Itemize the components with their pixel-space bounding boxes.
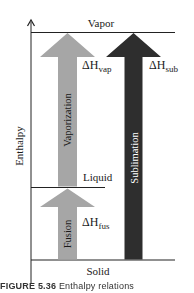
enthalpy-axis-label: Enthalpy: [13, 126, 25, 166]
vaporization-label: Vaporization: [62, 92, 73, 146]
figure-caption: FIGURE 5.36 Enthalpy relations: [0, 281, 194, 293]
solid-label: Solid: [86, 265, 110, 277]
delta-h-vap-label: ΔHvap: [82, 58, 112, 74]
delta-h-sub-label: ΔHsub: [149, 58, 178, 74]
delta-h-fus-label: ΔHfus: [82, 215, 110, 231]
vapor-label: Vapor: [88, 17, 115, 29]
caption-text: Enthalpy relations: [59, 281, 134, 291]
sublimation-label: Sublimation: [129, 132, 140, 184]
fusion-label: Fusion: [62, 219, 73, 248]
liquid-label: Liquid: [83, 171, 113, 183]
caption-prefix: FIGURE 5.36: [0, 281, 56, 291]
